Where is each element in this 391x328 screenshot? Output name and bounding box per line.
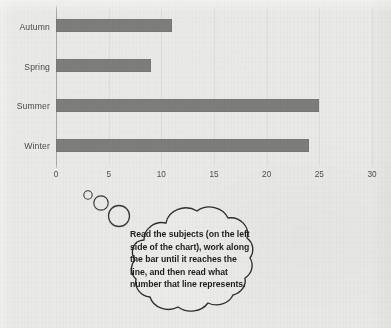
x-tick-label-5: 5 bbox=[106, 170, 111, 179]
thought-bubble-text: Read the subjects (on the leftside of th… bbox=[130, 228, 272, 291]
x-tick-label-20: 20 bbox=[262, 170, 271, 179]
x-tick-label-25: 25 bbox=[315, 170, 324, 179]
thought-bubble-dot-large bbox=[109, 206, 130, 227]
x-tick-label-0: 0 bbox=[54, 170, 59, 179]
bar-chart: Autumn Spring Summer Winter 051015202530 bbox=[0, 0, 391, 190]
x-tick-label-15: 15 bbox=[209, 170, 218, 179]
chart-page: Autumn Spring Summer Winter 051015202530… bbox=[0, 0, 391, 328]
x-tick-label-30: 30 bbox=[367, 170, 376, 179]
category-label-winter: Winter bbox=[2, 141, 50, 151]
thought-bubble-dot-medium bbox=[94, 196, 108, 210]
x-tick-label-10: 10 bbox=[157, 170, 166, 179]
bar-winter bbox=[56, 139, 309, 152]
gridline-30 bbox=[372, 8, 373, 166]
category-label-spring: Spring bbox=[2, 62, 50, 72]
bar-autumn bbox=[56, 19, 172, 32]
bar-spring bbox=[56, 59, 151, 72]
category-label-summer: Summer bbox=[2, 101, 50, 111]
category-label-autumn: Autumn bbox=[2, 22, 50, 32]
thought-bubble-dot-small bbox=[84, 191, 92, 199]
bar-summer bbox=[56, 99, 319, 112]
category-axis-labels: Autumn Spring Summer Winter bbox=[0, 0, 50, 170]
thought-bubble-annotation: Read the subjects (on the leftside of th… bbox=[80, 188, 310, 328]
gridline-25 bbox=[319, 8, 320, 166]
